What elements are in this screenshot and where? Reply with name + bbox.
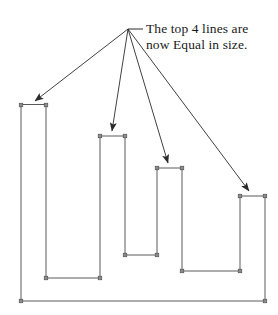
caption-line-2: now Equal in size. <box>146 37 248 52</box>
endpoint-handle <box>155 166 159 170</box>
endpoint-handle <box>155 253 159 257</box>
diagram-canvas: The top 4 lines are now Equal in size. <box>0 0 278 315</box>
endpoint-handle <box>123 253 127 257</box>
endpoint-handle <box>180 269 184 273</box>
endpoint-handle <box>263 299 267 303</box>
figure-container: The top 4 lines are now Equal in size. <box>0 0 278 315</box>
endpoint-handle <box>180 166 184 170</box>
endpoint-handle <box>238 269 242 273</box>
endpoint-handle <box>19 299 23 303</box>
endpoint-handle <box>98 276 102 280</box>
endpoint-handle <box>19 103 23 107</box>
endpoint-handle <box>44 276 48 280</box>
endpoint-handle <box>238 194 242 198</box>
caption-line-1: The top 4 lines are <box>146 21 248 36</box>
endpoint-handle <box>44 103 48 107</box>
endpoint-handle <box>263 194 267 198</box>
endpoint-handle <box>123 134 127 138</box>
endpoint-handle <box>98 134 102 138</box>
